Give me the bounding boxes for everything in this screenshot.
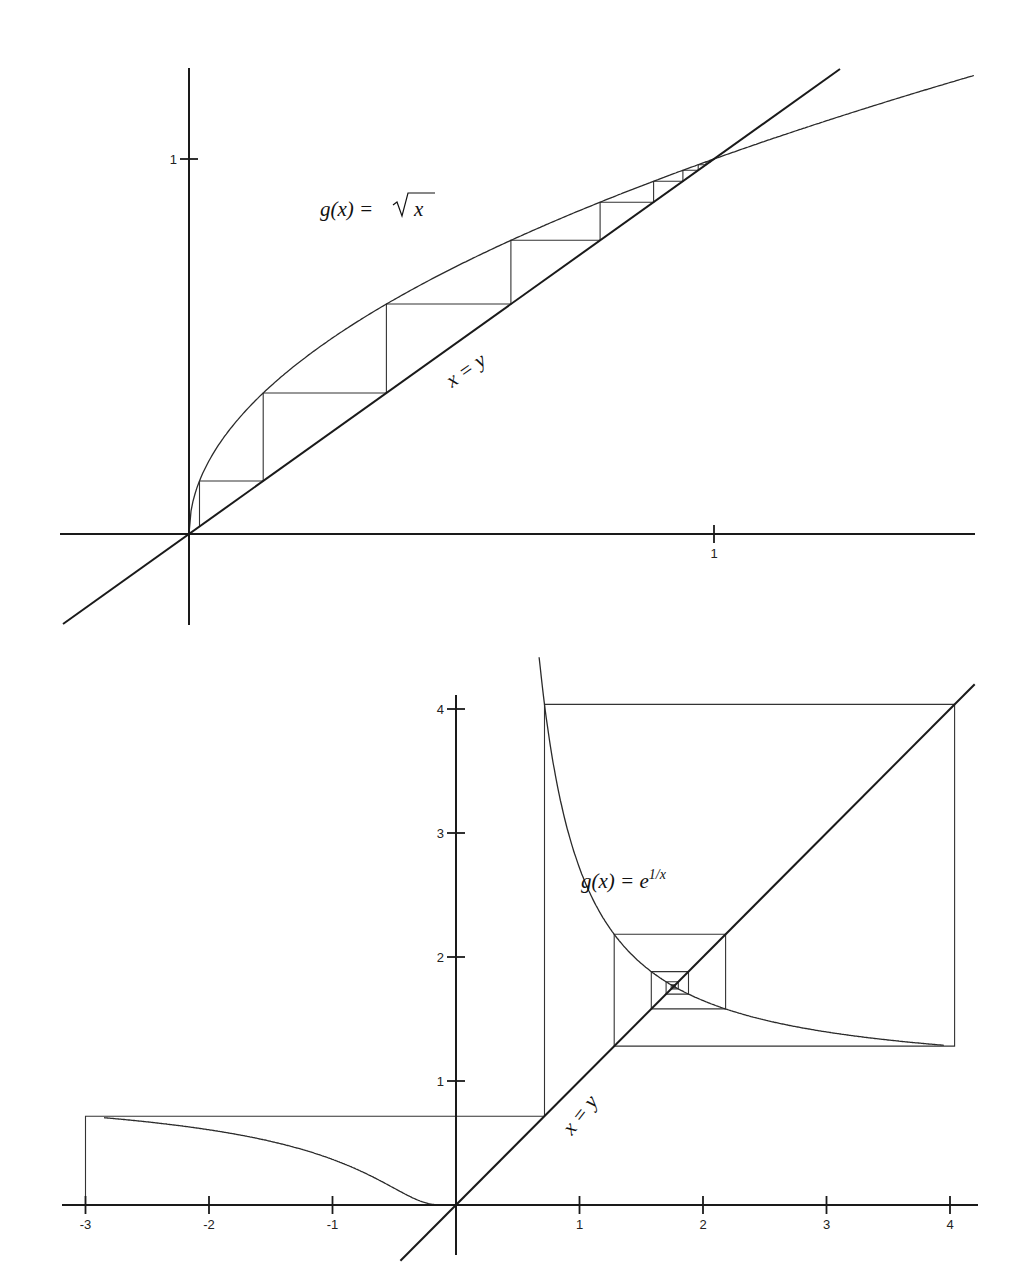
diagonal-label: x = y xyxy=(440,347,491,392)
x-tick-label: 1 xyxy=(576,1217,583,1232)
y-tick-label: 3 xyxy=(437,826,444,841)
radicand-label: x xyxy=(413,197,424,221)
x-tick-label: 2 xyxy=(699,1217,706,1232)
x-tick-label: -3 xyxy=(80,1217,92,1232)
x-tick-label: -2 xyxy=(203,1217,215,1232)
cobweb-path xyxy=(86,704,955,1205)
exp-curve-positive-branch xyxy=(539,657,944,1045)
axis-ticks: -3-2-112341234 xyxy=(80,702,954,1232)
identity-line xyxy=(63,69,840,624)
y-tick-label: 2 xyxy=(437,950,444,965)
y-tick-label: 1 xyxy=(170,152,177,167)
y-tick-label: 1 xyxy=(437,1074,444,1089)
function-label: g(x) = xyxy=(320,197,373,221)
function-label: g(x) = e1/x xyxy=(581,867,667,893)
y-tick-label: 4 xyxy=(437,702,444,717)
x-tick-label: 1 xyxy=(710,546,717,561)
x-tick-label: 3 xyxy=(823,1217,830,1232)
sqrt-curve xyxy=(189,76,974,535)
exp-cobweb-chart: -3-2-112341234 g(x) = e1/x x = y xyxy=(0,640,1034,1285)
sqrt-cobweb-chart: 11 g(x) = x x = y xyxy=(0,0,1034,640)
x-tick-label: 4 xyxy=(946,1217,953,1232)
axis-ticks: 11 xyxy=(170,152,718,561)
x-tick-label: -1 xyxy=(327,1217,339,1232)
identity-line xyxy=(400,684,974,1261)
exp-curve-negative-branch xyxy=(104,1118,441,1205)
cobweb-line xyxy=(86,704,955,1205)
